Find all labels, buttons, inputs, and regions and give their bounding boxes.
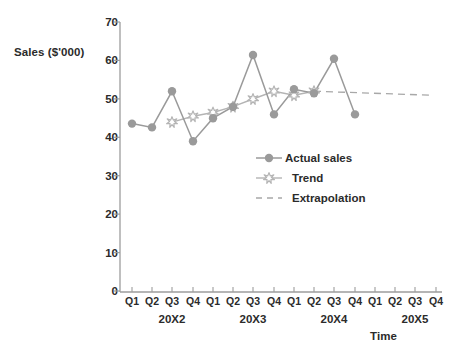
actual-sales-markers — [128, 51, 359, 146]
legend-swatch-trend — [256, 173, 282, 184]
sales-trend-chart: Sales ($'000) Time 70 60 50 40 30 20 10 … — [0, 0, 450, 352]
x-axis-ticks — [132, 287, 436, 292]
y-axis-ticks — [114, 22, 120, 291]
legend-swatch-actual-sales — [256, 154, 282, 162]
plot-area — [0, 0, 450, 352]
extrapolation-line — [314, 91, 430, 95]
actual-sales-line — [132, 55, 355, 141]
